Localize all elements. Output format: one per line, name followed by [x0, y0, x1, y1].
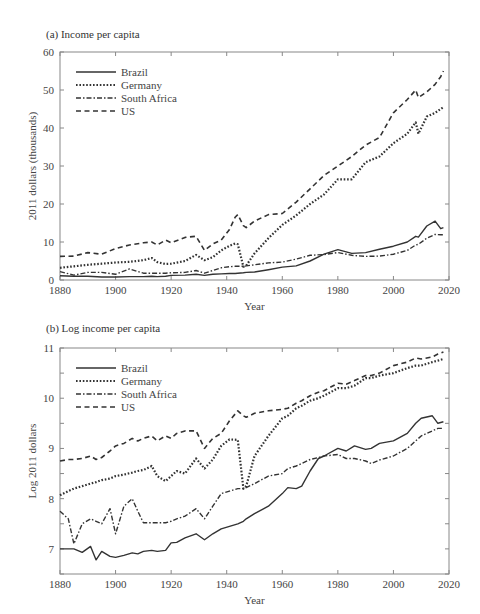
legend-label: Germany — [121, 79, 162, 91]
series-germany — [60, 359, 443, 495]
legend-label: Brazil — [121, 66, 148, 78]
series-brazil — [60, 221, 443, 277]
chart-income-per-capita: 1880190019201940196019802000202001020304… — [0, 0, 480, 614]
x-tick-label: 2020 — [438, 578, 461, 590]
x-tick-label: 1940 — [216, 284, 239, 296]
legend: BrazilGermanySouth AfricaUS — [76, 362, 177, 413]
x-tick-label: 1880 — [49, 578, 72, 590]
legend-label: Germany — [121, 375, 162, 387]
y-tick-label: 60 — [43, 46, 55, 58]
axes-frame — [60, 348, 449, 574]
y-tick-label: 10 — [43, 236, 55, 248]
x-tick-label: 1920 — [160, 284, 183, 296]
y-tick-label: 40 — [43, 122, 55, 134]
y-tick-label: 30 — [43, 160, 55, 172]
y-tick-label: 11 — [43, 342, 54, 354]
legend-label: South Africa — [121, 92, 177, 104]
x-tick-label: 1960 — [271, 578, 294, 590]
y-tick-label: 10 — [43, 392, 55, 404]
x-tick-label: 1960 — [271, 284, 294, 296]
y-axis-label: Log 2011 dollars — [26, 424, 38, 499]
legend-label: Brazil — [121, 362, 148, 374]
x-axis-label: Year — [244, 300, 265, 312]
y-tick-label: 9 — [49, 442, 55, 454]
y-tick-label: 50 — [43, 84, 55, 96]
x-tick-label: 1900 — [105, 578, 128, 590]
x-tick-label: 1980 — [327, 578, 350, 590]
x-tick-label: 1940 — [216, 578, 239, 590]
x-tick-label: 2000 — [382, 284, 405, 296]
series-south-africa — [60, 234, 443, 275]
series-us — [60, 352, 443, 461]
legend-label: US — [121, 105, 135, 117]
y-tick-label: 20 — [43, 198, 55, 210]
legend-label: US — [121, 401, 135, 413]
series-germany — [60, 107, 443, 268]
y-tick-label: 0 — [49, 274, 55, 286]
x-tick-label: 1920 — [160, 578, 183, 590]
x-tick-label: 1980 — [327, 284, 350, 296]
legend-label: South Africa — [121, 388, 177, 400]
x-tick-label: 2020 — [438, 284, 461, 296]
axes-frame — [60, 52, 449, 280]
x-tick-label: 1900 — [105, 284, 128, 296]
y-tick-label: 7 — [49, 543, 55, 555]
panel-a: 1880190019201940196019802000202001020304… — [26, 46, 461, 312]
panel-b: 188019001920194019601980200020207891011Y… — [26, 342, 461, 606]
series-brazil — [60, 416, 443, 560]
series-us — [60, 71, 443, 256]
x-axis-label: Year — [244, 594, 265, 606]
x-tick-label: 2000 — [382, 578, 405, 590]
y-axis-label: 2011 dollars (thousands) — [26, 111, 39, 220]
legend: BrazilGermanySouth AfricaUS — [76, 66, 177, 117]
y-tick-label: 8 — [49, 493, 55, 505]
